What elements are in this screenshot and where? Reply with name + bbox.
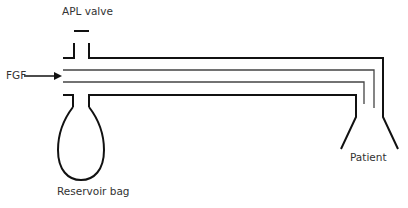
patient-label: Patient bbox=[350, 151, 387, 163]
breathing-system-diagram bbox=[0, 0, 408, 208]
inner-tube-line-lower bbox=[63, 82, 364, 104]
fgf-label: FGF bbox=[6, 69, 26, 81]
outer-tube-bottom bbox=[89, 95, 356, 149]
apl-valve-left-wall bbox=[63, 43, 74, 58]
reservoir-neck-left bbox=[63, 95, 73, 107]
apl-valve-label: APL valve bbox=[62, 5, 113, 17]
reservoir-bag bbox=[58, 107, 104, 180]
fgf-arrow-head-icon bbox=[54, 72, 62, 80]
reservoir-bag-label: Reservoir bag bbox=[57, 185, 130, 197]
inner-tube-line-upper bbox=[63, 70, 374, 108]
